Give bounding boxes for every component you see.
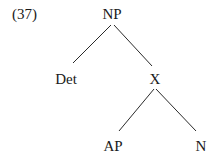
edge-np-det <box>73 25 111 63</box>
syntax-tree: (37) NP Det X AP N <box>0 0 219 158</box>
node-det: Det <box>55 71 77 87</box>
node-n: N <box>196 138 207 154</box>
syntax-tree-figure: (37) NP Det X AP N <box>0 0 219 158</box>
tree-edges <box>73 25 196 131</box>
example-number: (37) <box>12 6 37 23</box>
edge-x-n <box>156 89 196 131</box>
node-np: NP <box>102 6 121 22</box>
edge-np-x <box>114 25 152 66</box>
edge-x-ap <box>119 89 154 131</box>
node-ap: AP <box>103 138 122 154</box>
node-x: X <box>150 71 161 87</box>
